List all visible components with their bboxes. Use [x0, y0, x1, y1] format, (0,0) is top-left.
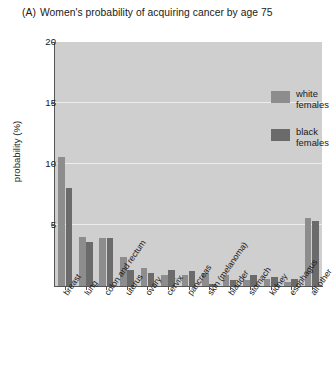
page-title: (A)Women's probability of acquiring canc… [22, 7, 332, 19]
bar-group [79, 42, 93, 286]
panel-letter: (A) [22, 7, 36, 18]
bar-group [58, 42, 72, 286]
y-axis-tick-label: 15 [16, 98, 56, 108]
y-axis-tick-mark [51, 164, 55, 165]
bar [99, 238, 106, 286]
bar-group [182, 42, 196, 286]
y-axis-tick-mark [51, 103, 55, 104]
bar-group [284, 42, 298, 286]
bar-group [264, 42, 278, 286]
y-axis-tick-mark [51, 42, 55, 43]
bar [58, 157, 65, 286]
plot-area: whitefemalesblackfemales [55, 42, 322, 286]
title-text: Women's probability of acquiring cancer … [40, 7, 273, 18]
y-axis-tick-label: 10 [16, 159, 56, 169]
bar-group [161, 42, 175, 286]
bar-group [202, 42, 216, 286]
bar-group [99, 42, 113, 286]
legend-label-line2: females [296, 99, 329, 110]
legend-swatch [271, 91, 290, 103]
legend-label-line1: white [296, 88, 329, 99]
y-axis-tick-mark [51, 225, 55, 226]
legend-label-line2: females [296, 137, 329, 148]
y-axis-tick-label: 20 [16, 37, 56, 47]
legend-label: blackfemales [296, 126, 329, 148]
chart-figure: (A)Women's probability of acquiring canc… [0, 0, 335, 375]
x-axis-labels: breastlungcolon and rectumuterusovarycer… [55, 287, 322, 375]
y-axis-tick-label: 5 [16, 220, 56, 230]
legend-label: whitefemales [296, 88, 329, 110]
legend-swatch [271, 129, 290, 141]
bar [66, 188, 73, 286]
legend-label-line1: black [296, 126, 329, 137]
bar-group [305, 42, 319, 286]
